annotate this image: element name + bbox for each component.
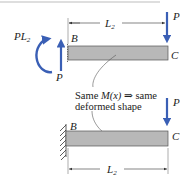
bottom-end-force-label: P — [172, 96, 180, 108]
fixed-support-icon — [60, 124, 66, 160]
moment-label: PL2 — [13, 30, 31, 44]
annotation-line-2: deformed shape — [75, 101, 142, 112]
top-end-force-label: P — [172, 10, 180, 22]
bottom-point-c: C — [172, 130, 180, 142]
bottom-beam — [66, 131, 168, 146]
moment-arrow-icon — [36, 39, 52, 72]
top-point-b: B — [71, 32, 78, 44]
top-length-label: L2 — [104, 17, 115, 31]
top-point-c: C — [171, 49, 179, 61]
beam-diagram: L2 P B C P PL2 Same M(x) ⇒ same deformed… — [0, 0, 189, 184]
top-diagram: L2 P B C P PL2 — [13, 10, 180, 83]
annotation: Same M(x) ⇒ same deformed shape — [75, 55, 157, 140]
top-beam — [68, 46, 168, 60]
bottom-point-b: B — [70, 120, 77, 132]
reaction-force-label: P — [55, 71, 63, 83]
bottom-length-label: L2 — [106, 163, 117, 177]
